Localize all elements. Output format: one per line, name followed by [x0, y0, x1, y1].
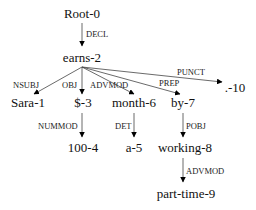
label-prep: PREP	[159, 78, 180, 88]
node-a: a-5	[126, 140, 143, 155]
label-advmod-month: ADVMOD	[90, 80, 128, 90]
label-punct: PUNCT	[177, 67, 206, 77]
node-hundred: 100-4	[68, 140, 99, 155]
node-by: by-7	[171, 95, 195, 110]
node-dollar: $-3	[74, 95, 91, 110]
label-nsubj: NSUBJ	[13, 80, 40, 90]
label-nummod: NUMMOD	[38, 121, 78, 131]
label-decl: DECL	[86, 29, 108, 39]
label-pobj: POBJ	[186, 121, 207, 131]
label-advmod-parttime: ADVMOD	[186, 166, 224, 176]
node-punct: .-10	[225, 80, 246, 95]
node-month: month-6	[112, 95, 157, 110]
node-root: Root-0	[64, 6, 100, 21]
label-det: DET	[115, 121, 132, 131]
node-sara: Sara-1	[11, 95, 45, 110]
node-working: working-8	[158, 140, 212, 155]
dependency-tree: DECL NSUBJ OBJ ADVMOD PREP PUNCT NUMMOD …	[0, 0, 256, 210]
node-parttime: part-time-9	[157, 186, 215, 201]
node-earns: earns-2	[63, 50, 101, 65]
label-obj: OBJ	[62, 80, 78, 90]
